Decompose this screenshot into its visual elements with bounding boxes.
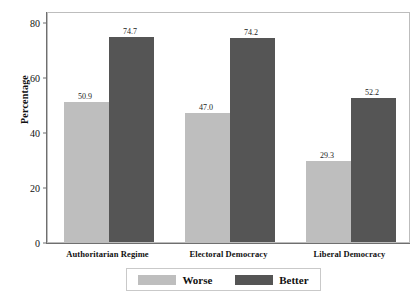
x-tick-label: Electoral Democracy <box>189 249 267 259</box>
legend-label-better: Better <box>279 274 308 286</box>
legend-swatch-worse-icon <box>138 275 176 285</box>
bar-value-label: 47.0 <box>199 103 213 112</box>
bar-better-1 <box>230 38 275 242</box>
legend-item-worse: Worse <box>138 274 212 286</box>
bar-chart-figure: Percentage 020406080 50.974.747.074.229.… <box>0 0 416 295</box>
y-tick-label: 0 <box>0 238 40 249</box>
legend-item-better: Better <box>235 274 308 286</box>
x-axis-spine <box>46 243 410 244</box>
y-tick-label: 60 <box>0 73 40 84</box>
bar-better-0 <box>109 37 154 242</box>
bar-value-label: 50.9 <box>78 92 92 101</box>
y-tick-label: 80 <box>0 18 40 29</box>
bar-value-label: 52.2 <box>365 88 379 97</box>
bar-worse-2 <box>306 161 351 242</box>
y-tick-label: 40 <box>0 128 40 139</box>
bar-value-label: 74.7 <box>123 27 137 36</box>
legend-label-worse: Worse <box>182 274 212 286</box>
plot-area <box>47 12 410 243</box>
y-axis-title: Percentage <box>19 40 30 160</box>
y-tick-label: 20 <box>0 183 40 194</box>
bar-value-label: 74.2 <box>244 28 258 37</box>
bar-value-label: 29.3 <box>320 151 334 160</box>
x-tick-label: Authoritarian Regime <box>66 249 149 259</box>
x-tick-label: Liberal Democracy <box>314 249 386 259</box>
bar-worse-0 <box>64 102 109 242</box>
bar-better-2 <box>351 98 396 242</box>
legend-swatch-better-icon <box>235 275 273 285</box>
chart-legend: Worse Better <box>126 268 321 291</box>
bar-worse-1 <box>185 113 230 242</box>
